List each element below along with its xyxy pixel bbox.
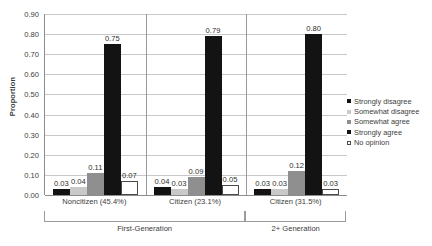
bar[interactable] bbox=[305, 34, 322, 195]
bar[interactable] bbox=[87, 173, 104, 195]
bar-value-label: 0.03 bbox=[172, 179, 187, 188]
bar-value-label: 0.09 bbox=[189, 167, 204, 176]
bar-value-label: 0.75 bbox=[105, 34, 120, 43]
y-axis-tick-0.10: 0.10 bbox=[1, 170, 39, 179]
bar-value-label: 0.04 bbox=[71, 177, 86, 186]
bar-chart: Proportion 0.900.800.700.600.500.400.300… bbox=[0, 0, 432, 246]
legend-item[interactable]: Strongly agree bbox=[347, 127, 432, 137]
bar-value-label: 0.11 bbox=[88, 163, 102, 172]
bar[interactable] bbox=[70, 187, 87, 195]
legend-swatch-icon bbox=[347, 99, 351, 103]
bar[interactable] bbox=[171, 189, 188, 195]
bar-slot: 0.03 bbox=[254, 14, 271, 195]
bar[interactable] bbox=[322, 189, 339, 195]
bar[interactable] bbox=[271, 189, 288, 195]
bar-slot: 0.12 bbox=[288, 14, 305, 195]
category-label: Citizen (23.1%) bbox=[145, 197, 246, 211]
bar-slot: 0.03 bbox=[53, 14, 70, 195]
generation-label: First-Generation bbox=[44, 224, 245, 233]
bar-set: 0.030.040.110.750.07 bbox=[45, 14, 146, 195]
y-axis-tick-0.80: 0.80 bbox=[1, 30, 39, 39]
y-axis-tick-0.60: 0.60 bbox=[1, 70, 39, 79]
bar[interactable] bbox=[288, 171, 305, 195]
bar[interactable] bbox=[222, 185, 239, 195]
y-axis-tick-0.90: 0.90 bbox=[1, 10, 39, 19]
legend-label: No opinion bbox=[354, 138, 389, 147]
bar-slot: 0.04 bbox=[70, 14, 87, 195]
bar-slot: 0.03 bbox=[271, 14, 288, 195]
category-label: Citizen (31.5%) bbox=[245, 197, 346, 211]
legend-swatch-icon bbox=[347, 120, 351, 124]
bar-value-label: 0.12 bbox=[289, 161, 304, 170]
generation-label: 2+ Generation bbox=[245, 224, 346, 233]
generation-bracket bbox=[44, 211, 245, 222]
bar-group: 0.040.030.090.790.05 bbox=[146, 14, 247, 195]
bar-value-label: 0.03 bbox=[54, 179, 69, 188]
legend-label: Strongly disagree bbox=[354, 97, 412, 106]
y-axis-tick-0.30: 0.30 bbox=[1, 130, 39, 139]
category-label: Noncitizen (45.4%) bbox=[44, 197, 145, 211]
bar[interactable] bbox=[104, 44, 121, 195]
bar-groups: 0.030.040.110.750.070.040.030.090.790.05… bbox=[45, 14, 347, 195]
generation-label-row: First-Generation2+ Generation bbox=[44, 211, 346, 241]
bar-slot: 0.03 bbox=[171, 14, 188, 195]
gridline-0.00 bbox=[45, 195, 347, 196]
y-axis-tick-labels: 0.900.800.700.600.500.400.300.200.100.00 bbox=[0, 0, 43, 246]
bar-slot: 0.75 bbox=[104, 14, 121, 195]
legend-label: Somewhat disagree bbox=[354, 107, 419, 116]
legend-item[interactable]: Strongly disagree bbox=[347, 96, 432, 106]
bar[interactable] bbox=[254, 189, 271, 195]
bar-slot: 0.04 bbox=[154, 14, 171, 195]
bar-value-label: 0.03 bbox=[323, 179, 338, 188]
legend-item[interactable]: Somewhat disagree bbox=[347, 106, 432, 116]
legend-swatch-icon bbox=[347, 130, 351, 134]
bar[interactable] bbox=[188, 177, 205, 195]
bar-value-label: 0.07 bbox=[122, 171, 137, 180]
legend-swatch-icon bbox=[347, 110, 351, 114]
y-axis-tick-0.70: 0.70 bbox=[1, 50, 39, 59]
bar-value-label: 0.03 bbox=[272, 179, 287, 188]
bar-slot: 0.07 bbox=[121, 14, 138, 195]
legend-item[interactable]: Somewhat agree bbox=[347, 117, 432, 127]
bar-value-label: 0.80 bbox=[306, 24, 321, 33]
bar-group: 0.030.030.120.800.03 bbox=[246, 14, 347, 195]
bar-value-label: 0.04 bbox=[155, 177, 170, 186]
legend: Strongly disagreeSomewhat disagreeSomewh… bbox=[347, 96, 432, 148]
legend-item[interactable]: No opinion bbox=[347, 138, 432, 148]
bar[interactable] bbox=[121, 181, 138, 195]
bar-slot: 0.80 bbox=[305, 14, 322, 195]
bar-group: 0.030.040.110.750.07 bbox=[45, 14, 146, 195]
bar-set: 0.040.030.090.790.05 bbox=[146, 14, 247, 195]
generation-bracket bbox=[245, 211, 346, 222]
group-separator bbox=[246, 14, 247, 195]
legend-label: Strongly agree bbox=[354, 128, 402, 137]
y-axis-tick-0.40: 0.40 bbox=[1, 110, 39, 119]
bar-slot: 0.11 bbox=[87, 14, 104, 195]
bar-slot: 0.79 bbox=[205, 14, 222, 195]
legend-label: Somewhat agree bbox=[354, 117, 410, 126]
bar-value-label: 0.79 bbox=[206, 26, 221, 35]
y-axis-tick-0.50: 0.50 bbox=[1, 90, 39, 99]
bar[interactable] bbox=[205, 36, 222, 195]
category-label-row: Noncitizen (45.4%)Citizen (23.1%)Citizen… bbox=[44, 197, 346, 211]
group-separator bbox=[146, 14, 147, 195]
bar-value-label: 0.03 bbox=[255, 179, 270, 188]
bar[interactable] bbox=[53, 189, 70, 195]
bar-slot: 0.09 bbox=[188, 14, 205, 195]
legend-swatch-icon bbox=[347, 141, 351, 145]
y-axis-tick-0.00: 0.00 bbox=[1, 191, 39, 200]
bar[interactable] bbox=[154, 187, 171, 195]
bar-slot: 0.05 bbox=[222, 14, 239, 195]
bar-value-label: 0.05 bbox=[223, 175, 238, 184]
bar-set: 0.030.030.120.800.03 bbox=[246, 14, 347, 195]
y-axis-tick-0.20: 0.20 bbox=[1, 150, 39, 159]
plot-area: 0.030.040.110.750.070.040.030.090.790.05… bbox=[44, 14, 347, 195]
bar-slot: 0.03 bbox=[322, 14, 339, 195]
